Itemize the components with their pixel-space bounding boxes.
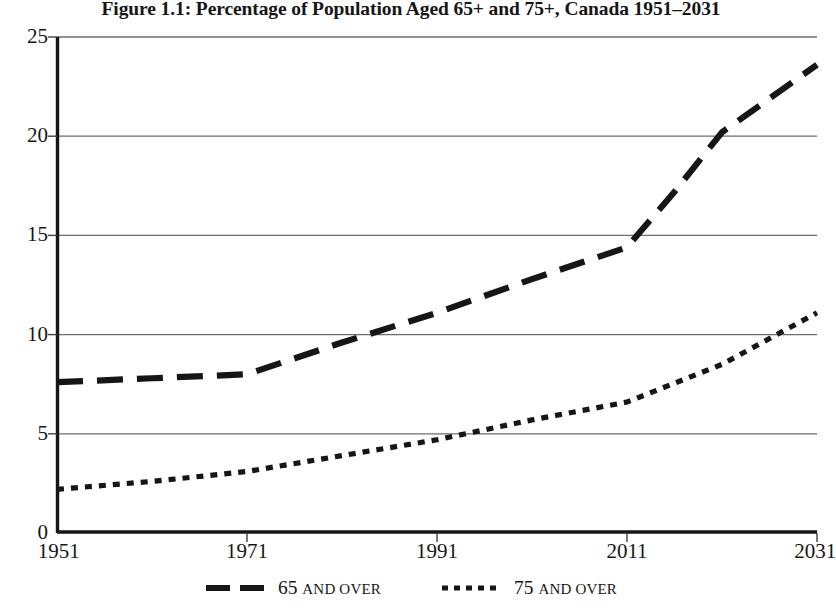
y-tick-label-25: 25 [27, 26, 48, 47]
legend-label-number-2: 75 [514, 577, 538, 598]
x-tick-label-1991: 1991 [416, 541, 458, 562]
legend-label-1: 65 AND OVER [278, 578, 381, 598]
x-tick-label-2011: 2011 [606, 541, 647, 562]
legend-swatch-dashed [205, 581, 267, 595]
y-tick-label-15: 15 [27, 224, 48, 245]
chart-svg [57, 37, 817, 533]
x-tick-label-1951: 1951 [38, 541, 80, 562]
legend-label-2: 75 AND OVER [514, 578, 617, 598]
x-tick-label-2031: 2031 [794, 541, 836, 562]
plot-area [57, 37, 817, 533]
y-tick-label-10: 10 [27, 324, 48, 345]
chart-legend: 65 AND OVER75 AND OVER [0, 578, 822, 598]
x-axis-tick-marks [48, 37, 817, 542]
legend-entry-1[interactable]: 65 AND OVER [205, 578, 381, 598]
chart-title: Figure 1.1: Percentage of Population Age… [0, 0, 822, 20]
axis-lines [57, 37, 817, 533]
legend-swatch-dotted [441, 581, 503, 595]
y-tick-label-20: 20 [27, 125, 48, 146]
legend-label-number-1: 65 [278, 577, 302, 598]
data-series-group [57, 65, 817, 490]
legend-entry-2[interactable]: 75 AND OVER [441, 578, 617, 598]
y-tick-label-5: 5 [38, 423, 49, 444]
y-axis-tick-labels: 2520151050 [0, 0, 48, 611]
series-line-2 [57, 313, 817, 490]
legend-label-text-1: AND OVER [302, 581, 381, 597]
legend-label-text-2: AND OVER [538, 581, 617, 597]
x-tick-label-1971: 1971 [226, 541, 268, 562]
x-axis-tick-labels: 19511971199120112031 [0, 541, 822, 575]
